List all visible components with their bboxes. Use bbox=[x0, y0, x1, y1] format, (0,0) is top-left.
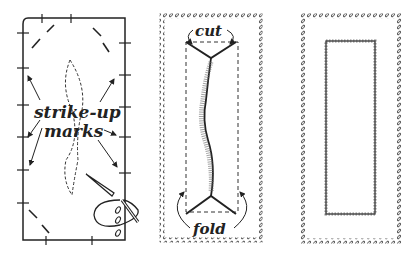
label-fold: fold bbox=[192, 220, 226, 238]
needle-icon bbox=[86, 174, 114, 196]
label-strike-up: strike-up bbox=[33, 102, 121, 122]
panel-finished-opening bbox=[303, 16, 399, 241]
label-cut: cut bbox=[195, 22, 222, 40]
label-marks: marks bbox=[44, 121, 104, 141]
panel-strike-up-marks: strike-up marks bbox=[17, 14, 138, 245]
panel-cut-fold: cut fold bbox=[162, 16, 260, 240]
sewing-diagram: strike-up marks cut fold bbox=[0, 0, 417, 253]
